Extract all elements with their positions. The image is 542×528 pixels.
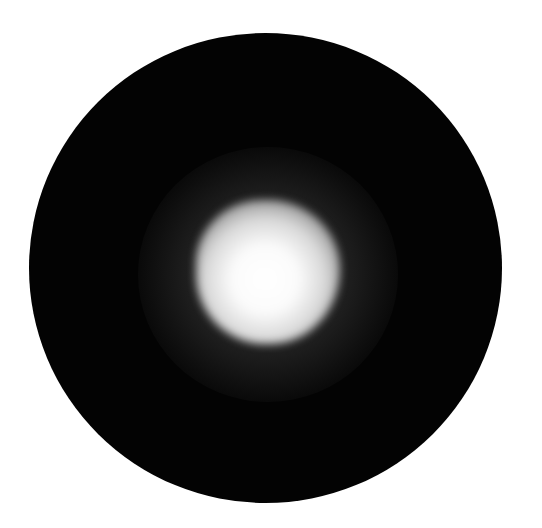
bright-spot — [196, 200, 340, 344]
dark-circular-field — [29, 33, 502, 503]
